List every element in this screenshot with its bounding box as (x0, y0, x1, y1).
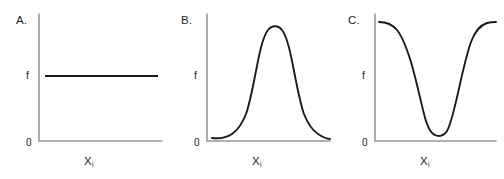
panel-a-y-axis-label: f (26, 69, 29, 81)
panel-a-letter: A. (16, 14, 27, 26)
panel-c-y-axis-label: f (362, 69, 365, 81)
panel-c-origin-label: 0 (362, 137, 368, 148)
panel-b-x-axis-label-base: X (252, 155, 260, 167)
panel-b-axes (207, 14, 330, 141)
panel-b-x-axis-label-subscript: i (260, 160, 262, 169)
panel-c: C. f 0 Xi (336, 0, 504, 179)
panel-b-plot (168, 0, 336, 179)
panel-a-x-axis-label-base: X (84, 155, 92, 167)
panel-b-x-axis-label: Xi (252, 155, 262, 169)
panel-c-x-axis-label: Xi (420, 155, 430, 169)
panel-c-x-axis-label-subscript: i (428, 160, 430, 169)
panel-a-origin-label: 0 (26, 137, 32, 148)
panel-c-x-axis-label-base: X (420, 155, 428, 167)
panel-a-x-axis-label-subscript: i (92, 160, 94, 169)
panel-b: B. f 0 Xi (168, 0, 336, 179)
panel-b-origin-label: 0 (194, 137, 200, 148)
panel-a-axes (39, 14, 162, 141)
panel-c-axes (375, 14, 496, 141)
panel-b-letter: B. (181, 14, 192, 26)
panel-c-letter: C. (348, 14, 360, 26)
figure-container: A. f 0 Xi B. f 0 Xi C. f 0 Xi (0, 0, 504, 179)
panel-b-y-axis-label: f (194, 69, 197, 81)
panel-a: A. f 0 Xi (0, 0, 168, 179)
inverted-gaussian-valley-curve (379, 22, 496, 136)
panel-c-plot (336, 0, 504, 179)
panel-a-x-axis-label: Xi (84, 155, 94, 169)
gaussian-peak-curve (212, 26, 330, 139)
panel-a-plot (0, 0, 168, 179)
